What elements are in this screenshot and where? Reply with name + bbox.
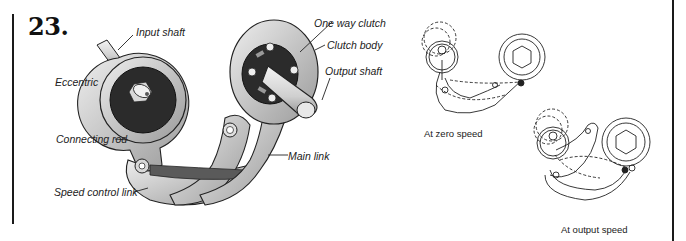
schematic-output-speed (534, 109, 650, 200)
eccentric-disc (100, 57, 186, 143)
caption-output-speed: At output speed (561, 224, 628, 235)
label-main-link: Main link (288, 150, 329, 162)
main-mechanism-illustration (0, 0, 686, 241)
schematic-zero-speed (422, 22, 545, 113)
label-eccentric: Eccentric (55, 76, 98, 88)
label-output-shaft: Output shaft (325, 65, 382, 77)
caption-zero-speed: At zero speed (424, 128, 483, 139)
label-connecting-rod: Connecting rod (56, 133, 127, 145)
label-input-shaft: Input shaft (136, 26, 185, 38)
label-clutch-body: Clutch body (327, 39, 382, 51)
label-one-way-clutch: One way clutch (314, 17, 386, 29)
label-speed-control-link: Speed control link (54, 186, 137, 198)
